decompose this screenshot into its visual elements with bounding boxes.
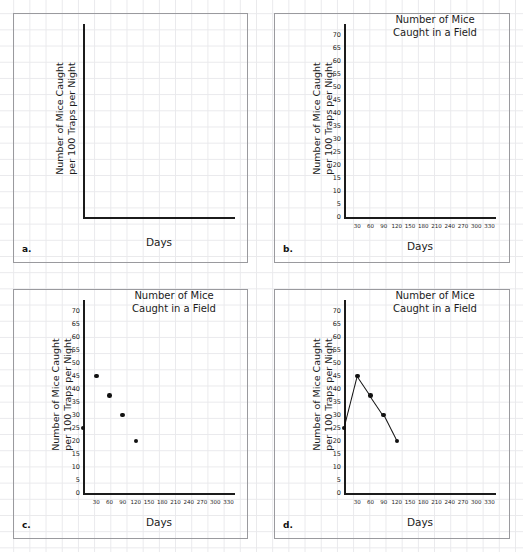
chart-title: Number of Mice Caught in a Field [352, 14, 518, 39]
y-tick-label: 70 [327, 307, 341, 315]
y-tick-label: 50 [327, 359, 341, 367]
x-tick-label: 330 [481, 223, 497, 229]
y-tick-label: 10 [327, 463, 341, 471]
y-tick-label: 45 [327, 96, 341, 104]
chart-title: Number of Mice Caught in a Field [352, 290, 518, 315]
y-tick-label: 65 [327, 44, 341, 52]
y-tick-label: 0 [66, 489, 80, 497]
y-tick-label: 70 [66, 307, 80, 315]
data-point [120, 413, 125, 418]
plot-area: Number of Mice Caught per 100 Traps per … [0, 0, 261, 276]
y-tick-label: 55 [327, 346, 341, 354]
y-tick-label: 60 [327, 57, 341, 65]
y-axis-line [344, 24, 346, 219]
panel-b-labeled-axes: b.Number of Mice Caught in a FieldNumber… [261, 0, 523, 276]
y-tick-label: 55 [66, 346, 80, 354]
y-tick-label: 35 [327, 398, 341, 406]
y-tick-label: 15 [327, 174, 341, 182]
y-tick-label: 20 [327, 437, 341, 445]
y-tick-label: 0 [327, 213, 341, 221]
y-axis-line [344, 300, 346, 495]
y-tick-label: 0 [327, 489, 341, 497]
y-tick-label: 60 [66, 333, 80, 341]
data-point [368, 393, 373, 398]
y-tick-label: 50 [66, 359, 80, 367]
x-tick-label: 330 [220, 499, 236, 505]
y-tick-label: 20 [66, 437, 80, 445]
x-axis-label: Days [83, 516, 235, 528]
y-tick-label: 35 [327, 122, 341, 130]
x-axis-line [83, 217, 235, 219]
y-tick-label: 60 [327, 333, 341, 341]
y-tick-label: 70 [327, 31, 341, 39]
y-tick-label: 10 [327, 187, 341, 195]
chart-title: Number of Mice Caught in a Field [91, 290, 257, 315]
y-tick-label: 25 [327, 148, 341, 156]
data-point [134, 439, 139, 444]
y-axis-label: Number of Mice Caught per 100 Traps per … [54, 30, 77, 207]
y-tick-label: 45 [327, 372, 341, 380]
y-tick-label: 30 [327, 411, 341, 419]
panel-a-blank-axes: a.Number of Mice Caught per 100 Traps pe… [0, 0, 261, 276]
x-axis-line [344, 493, 496, 495]
y-tick-label: 40 [66, 385, 80, 393]
figure-panel-grid: a.Number of Mice Caught per 100 Traps pe… [0, 0, 523, 552]
y-tick-label: 15 [327, 450, 341, 458]
y-tick-label: 55 [327, 70, 341, 78]
data-point [355, 374, 360, 379]
y-tick-label: 5 [327, 476, 341, 484]
y-tick-label: 65 [327, 320, 341, 328]
plot-area: Number of Mice Caught in a FieldNumber o… [261, 276, 523, 552]
y-tick-label: 65 [66, 320, 80, 328]
y-tick-label: 45 [66, 372, 80, 380]
y-tick-label: 30 [66, 411, 80, 419]
y-tick-label: 10 [66, 463, 80, 471]
y-axis-line [83, 300, 85, 495]
panel-d-line: d.Number of Mice Caught in a FieldNumber… [261, 276, 523, 552]
x-axis-label: Days [83, 236, 235, 248]
y-tick-label: 5 [66, 476, 80, 484]
y-tick-label: 5 [327, 200, 341, 208]
y-tick-label: 40 [327, 385, 341, 393]
y-tick-label: 35 [66, 398, 80, 406]
y-tick-label: 30 [327, 135, 341, 143]
y-tick-label: 40 [327, 109, 341, 117]
plot-area: Number of Mice Caught in a FieldNumber o… [0, 276, 261, 552]
x-axis-line [344, 217, 496, 219]
y-tick-label: 20 [327, 161, 341, 169]
x-axis-label: Days [344, 240, 496, 252]
y-tick-label: 25 [66, 424, 80, 432]
x-tick-label: 330 [481, 499, 497, 505]
line-segment [383, 415, 397, 442]
x-axis-label: Days [344, 516, 496, 528]
y-axis-line [83, 24, 85, 219]
x-axis-line [83, 493, 235, 495]
plot-area: Number of Mice Caught in a FieldNumber o… [261, 0, 523, 276]
data-point [395, 439, 400, 444]
y-tick-label: 50 [327, 83, 341, 91]
y-tick-label: 25 [327, 424, 341, 432]
data-point [107, 393, 112, 398]
data-point [94, 374, 99, 379]
panel-c-scatter: c.Number of Mice Caught in a FieldNumber… [0, 276, 261, 552]
y-tick-label: 15 [66, 450, 80, 458]
